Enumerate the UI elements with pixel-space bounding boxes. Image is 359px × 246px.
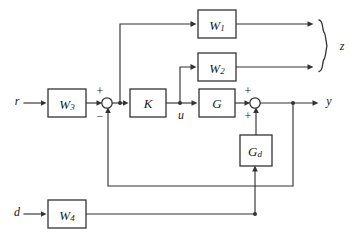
block-w1[interactable]: W1 xyxy=(198,10,236,38)
block-k[interactable]: K xyxy=(130,89,166,117)
arrow-d-to-w4 xyxy=(41,211,47,216)
arrow-sum-to-k xyxy=(123,100,129,105)
error-sum-minus-sign: − xyxy=(97,109,104,123)
brace-path xyxy=(319,20,327,72)
error-branch-dot xyxy=(118,101,122,105)
disturbance-branch-dot xyxy=(253,212,257,216)
arrow-r-to-w3 xyxy=(41,100,47,105)
arrow-w2-to-brace xyxy=(308,64,314,70)
arrow-k-to-g xyxy=(192,100,198,106)
block-g-label: G xyxy=(212,96,222,111)
control-system-block-diagram: + − + + W1 W2 W3 xyxy=(0,0,359,246)
error-sum-circle xyxy=(102,98,112,108)
signal-label-z: z xyxy=(339,39,345,53)
control-branch-dot xyxy=(178,101,182,105)
output-sum-circle xyxy=(250,98,260,108)
block-g[interactable]: G xyxy=(199,89,235,117)
signal-label-u: u xyxy=(178,108,184,122)
signal-label-layer: r d u y z xyxy=(14,39,345,219)
wire-control-branch-to-w2 xyxy=(180,67,192,103)
output-sum-plus-sign-bottom: + xyxy=(245,109,252,123)
signal-label-d: d xyxy=(14,205,21,219)
arrow-w1-to-brace xyxy=(308,21,314,27)
block-k-label: K xyxy=(143,96,154,111)
output-sum-plus-sign-top: + xyxy=(245,84,252,98)
block-w2[interactable]: W2 xyxy=(198,53,236,81)
arrow-error-branch-to-w1 xyxy=(191,21,197,27)
signal-label-r: r xyxy=(15,94,20,108)
output-grouping-brace xyxy=(319,20,327,72)
wire-layer xyxy=(24,21,319,217)
output-branch-dot xyxy=(291,101,295,105)
block-w3[interactable]: W3 xyxy=(48,89,86,117)
wire-w4-to-gd xyxy=(86,170,255,214)
error-sum-plus-sign: + xyxy=(97,84,104,98)
arrow-control-branch-to-w2 xyxy=(191,64,197,70)
arrow-sum-to-y xyxy=(313,100,319,106)
block-w4[interactable]: W4 xyxy=(48,200,86,228)
block-gd[interactable]: Gd xyxy=(240,135,272,166)
signal-label-y: y xyxy=(325,94,332,108)
block-diagram-canvas: + − + + W1 W2 W3 xyxy=(0,0,359,246)
